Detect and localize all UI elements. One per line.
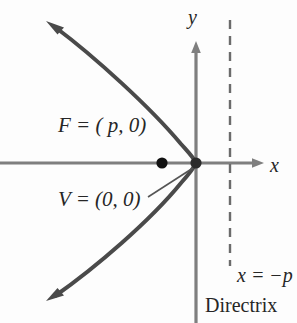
y-axis-label: y [188, 7, 197, 27]
vertex-point-marker [190, 157, 201, 168]
x-axis-label: x [270, 155, 279, 175]
x-axis-arrowhead-icon [252, 158, 264, 168]
directrix-equation-label: x = −p [237, 265, 293, 285]
y-axis-arrowhead-icon [191, 41, 201, 53]
focus-point-marker [156, 157, 167, 168]
x-axis [0, 158, 264, 168]
focus-label: F = ( p, 0) [58, 115, 146, 136]
directrix-name-label: Directrix [205, 295, 277, 315]
y-axis [191, 41, 201, 323]
parabola-diagram: F = ( p, 0) V = (0, 0) x y x = −p Direct… [0, 0, 297, 323]
vertex-label: V = (0, 0) [58, 189, 141, 210]
